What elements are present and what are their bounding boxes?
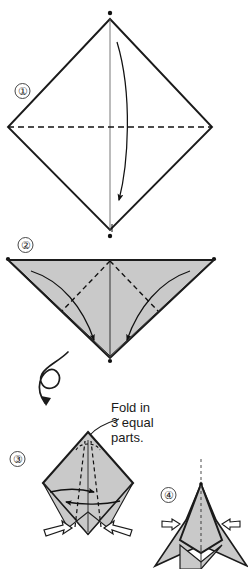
turn-over-arrowhead bbox=[41, 396, 51, 406]
step-2-group: ② bbox=[6, 224, 216, 363]
step-1-fold-arrow bbox=[117, 42, 127, 200]
step-1-number: ① bbox=[18, 85, 28, 97]
step-3-caption-line-3: parts. bbox=[111, 430, 144, 445]
step-2-number: ② bbox=[21, 239, 31, 251]
step-4-group: ④ bbox=[155, 459, 247, 569]
step-4-apex-dot bbox=[199, 482, 203, 486]
step-1-bottom-vertex-dot bbox=[108, 234, 112, 238]
step-3-caption-line-1: Fold in bbox=[111, 400, 150, 415]
step-4-number: ④ bbox=[164, 489, 174, 501]
step-1-group: ① bbox=[8, 11, 212, 238]
step-4-open-right-arrow bbox=[222, 519, 240, 530]
turn-over-loop-arrow bbox=[39, 352, 68, 403]
step-3-number: ③ bbox=[13, 453, 23, 465]
step-3-caption-line-2: 3 equal bbox=[111, 415, 154, 430]
step-2-bottom-vertex-dot bbox=[108, 359, 112, 363]
origami-instruction-sheet: ① ② bbox=[0, 0, 248, 569]
step-3-group: ③ Fold in 3 equal parts. bbox=[10, 400, 154, 536]
step-1-top-vertex-dot bbox=[108, 11, 112, 15]
origami-diagram: ① ② bbox=[0, 0, 248, 569]
turn-over-symbol-group bbox=[39, 352, 68, 406]
step-2-triangle-outline bbox=[8, 260, 214, 358]
step-4-open-left-arrow bbox=[162, 519, 180, 530]
